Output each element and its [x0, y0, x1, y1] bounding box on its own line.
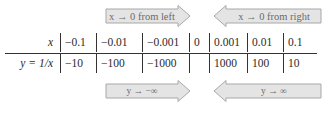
arrow-x-from-left: x → 0 from left	[105, 5, 191, 27]
y-cell: −1000	[142, 54, 177, 73]
x-row: x −0.1 −0.01 −0.001 0 0.001 0.01 0.1	[0, 33, 331, 52]
x-row-label: x	[0, 33, 60, 52]
x-cell: 0.01	[247, 33, 272, 52]
arrow-label: x → 0 from right	[227, 5, 321, 27]
arrow-x-from-right: x → 0 from right	[213, 5, 322, 27]
arrow-y-pos-infinity: y → ∞	[213, 80, 322, 102]
x-cell: −0.001	[142, 33, 179, 52]
arrow-label: y → −∞	[105, 80, 179, 102]
arrow-label: x → 0 from left	[105, 5, 179, 27]
arrow-y-neg-infinity: y → −∞	[105, 80, 191, 102]
x-cell: 0.1	[283, 33, 302, 52]
x-cell: −0.01	[96, 33, 128, 52]
arrow-label: y → ∞	[227, 80, 321, 102]
y-cell: −10	[60, 54, 83, 73]
y-cell: 1000	[209, 54, 237, 73]
x-cell: −0.1	[60, 33, 86, 52]
y-cell: 100	[247, 54, 269, 73]
y-row: y = 1/x −10 −100 −1000 1000 100 10	[0, 54, 331, 73]
y-cell: 10	[283, 54, 300, 73]
y-cell: −100	[96, 54, 125, 73]
y-cell	[189, 54, 194, 73]
x-cell: 0	[189, 33, 200, 52]
y-row-label: y = 1/x	[0, 54, 60, 73]
x-cell: 0.001	[209, 33, 240, 52]
